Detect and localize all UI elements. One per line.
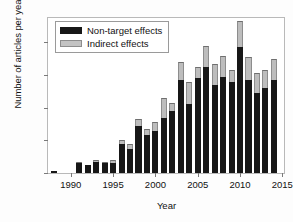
legend-item-non-target: Non-target effects: [60, 25, 162, 36]
bar-2005: [195, 67, 201, 173]
bar-2011: [245, 57, 251, 173]
bar-2006: [203, 46, 209, 173]
bar-segment-non-target: [119, 144, 125, 173]
bar-segment-non-target: [110, 163, 116, 173]
bar-1996: [119, 140, 125, 173]
bar-segment-non-target: [237, 47, 243, 173]
bar-segment-indirect: [186, 82, 192, 105]
legend-swatch-indirect-icon: [60, 40, 82, 47]
y-axis-title: Number of articles per year: [12, 0, 23, 128]
bar-2001: [161, 98, 167, 173]
bar-1992: [85, 165, 91, 173]
bar-2012: [254, 73, 260, 173]
bar-segment-non-target: [245, 80, 251, 173]
bar-segment-non-target: [161, 118, 167, 173]
bar-segment-non-target: [169, 111, 175, 173]
bar-segment-indirect: [178, 62, 184, 80]
bar-segment-indirect: [245, 57, 251, 80]
x-tick-1995: [113, 173, 114, 177]
y-tick-20: [44, 140, 48, 141]
bar-1988: [51, 171, 57, 173]
bar-2007: [212, 64, 218, 173]
bar-2002: [169, 103, 175, 173]
bar-2003: [178, 62, 184, 173]
bar-1993: [93, 160, 99, 173]
x-tick-label-2015: 2015: [262, 179, 293, 190]
bar-segment-non-target: [271, 80, 277, 173]
bar-segment-indirect: [195, 67, 201, 78]
y-tick-40: [44, 108, 48, 109]
y-tick-60: [44, 75, 48, 76]
bar-2008: [220, 56, 226, 173]
bar-segment-indirect: [254, 73, 260, 93]
x-tick-label-1990: 1990: [51, 179, 91, 190]
bar-2004: [186, 82, 192, 173]
bar-segment-non-target: [203, 67, 209, 173]
x-tick-2015: [282, 173, 283, 177]
bar-segment-non-target: [85, 165, 91, 173]
chart-legend: Non-target effects Indirect effects: [55, 21, 169, 53]
x-tick-label-1995: 1995: [93, 179, 133, 190]
bar-segment-indirect: [271, 59, 277, 80]
x-axis-title: Year: [44, 200, 289, 211]
bar-segment-indirect: [203, 46, 209, 67]
bar-2010: [237, 21, 243, 173]
bar-segment-non-target: [212, 85, 218, 173]
bar-1994: [102, 162, 108, 173]
x-tick-2010: [240, 173, 241, 177]
bar-segment-indirect: [212, 64, 218, 85]
bar-segment-indirect: [262, 70, 268, 88]
bar-segment-non-target: [76, 163, 82, 173]
bar-1999: [144, 129, 150, 173]
bar-1997: [127, 144, 133, 173]
bar-segment-non-target: [262, 88, 268, 173]
bar-segment-non-target: [220, 77, 226, 173]
x-tick-2005: [198, 173, 199, 177]
bar-1991: [76, 162, 82, 173]
bar-2014: [271, 59, 277, 173]
chart-figure: Number of articles per year Year 0204060…: [0, 0, 293, 222]
legend-swatch-non-target-icon: [60, 27, 82, 34]
bar-1995: [110, 160, 116, 173]
bar-segment-indirect: [220, 56, 226, 77]
bar-segment-indirect: [169, 103, 175, 111]
bar-segment-non-target: [186, 104, 192, 173]
x-tick-1990: [71, 173, 72, 177]
x-tick-2000: [155, 173, 156, 177]
bar-segment-non-target: [102, 163, 108, 173]
bar-segment-indirect: [237, 21, 243, 47]
bar-segment-non-target: [152, 131, 158, 173]
bar-segment-non-target: [127, 149, 133, 173]
legend-label-indirect: Indirect effects: [87, 38, 149, 49]
legend-label-non-target: Non-target effects: [87, 25, 162, 36]
bar-segment-non-target: [144, 135, 150, 173]
bar-segment-non-target: [51, 171, 57, 173]
bar-segment-non-target: [178, 80, 184, 173]
bar-segment-non-target: [135, 126, 141, 173]
x-tick-label-2005: 2005: [178, 179, 218, 190]
bar-2000: [152, 122, 158, 173]
bar-segment-indirect: [161, 98, 167, 118]
y-tick-0: [44, 173, 48, 174]
legend-item-indirect: Indirect effects: [60, 38, 162, 49]
bar-segment-indirect: [152, 122, 158, 130]
bar-segment-non-target: [254, 93, 260, 173]
y-tick-80: [44, 42, 48, 43]
x-tick-label-2010: 2010: [220, 179, 260, 190]
bar-2009: [229, 70, 235, 173]
bar-segment-indirect: [229, 70, 235, 81]
bar-2013: [262, 70, 268, 173]
x-tick-label-2000: 2000: [135, 179, 175, 190]
bar-1998: [135, 119, 141, 173]
bar-segment-non-target: [229, 82, 235, 173]
bar-segment-non-target: [195, 78, 201, 173]
bar-segment-non-target: [93, 162, 99, 173]
